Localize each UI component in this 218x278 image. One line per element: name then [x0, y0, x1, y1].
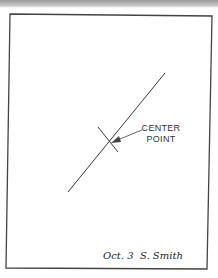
diagram-canvas: CENTER POINT Oct. 3 S. Smith [0, 0, 218, 278]
signature-annotation: S. Smith [140, 250, 183, 262]
center-label-line1: CENTER [141, 123, 181, 133]
drawing-svg [0, 0, 218, 278]
center-label-line2: POINT [141, 134, 181, 144]
date-annotation: Oct. 3 [103, 250, 134, 262]
